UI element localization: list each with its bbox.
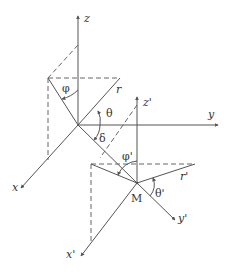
theta-arc xyxy=(98,111,100,125)
r-vector xyxy=(78,78,120,125)
x-axis xyxy=(21,125,78,188)
label-r: r xyxy=(116,83,122,96)
label-z-prime: z' xyxy=(142,96,152,109)
theta-prime-arc xyxy=(150,178,154,196)
point-M xyxy=(136,182,139,185)
label-theta-prime: θ' xyxy=(155,187,165,200)
phi-prime-arc xyxy=(118,161,137,175)
x-prime-axis xyxy=(81,183,137,256)
dashed-projection-diag xyxy=(48,45,78,78)
label-r-prime: r' xyxy=(180,170,188,183)
label-theta: θ xyxy=(106,107,113,120)
phi-prime-line xyxy=(91,164,137,183)
label-y: y xyxy=(207,108,215,121)
label-phi-prime: φ' xyxy=(122,150,133,163)
label-delta: δ xyxy=(99,132,106,145)
label-M: M xyxy=(131,192,142,205)
label-z: z xyxy=(83,12,90,25)
label-x-prime: x' xyxy=(66,248,75,261)
label-y-prime: y' xyxy=(177,212,187,225)
label-x: x xyxy=(12,181,19,194)
coordinate-diagram: z y x r φ θ δ z' y' x' r' φ' θ' M xyxy=(0,0,228,275)
label-phi: φ xyxy=(62,82,70,95)
